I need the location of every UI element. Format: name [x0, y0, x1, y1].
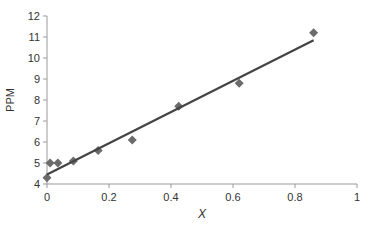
y-tick-label: 6 — [34, 136, 40, 148]
y-tick-label: 4 — [34, 178, 40, 190]
y-tick-label: 5 — [34, 157, 40, 169]
data-point-diamond — [309, 28, 318, 37]
data-point-diamond — [53, 159, 62, 168]
x-axis-label: X — [197, 207, 207, 221]
trend-line — [47, 40, 314, 174]
y-tick-label: 7 — [34, 115, 40, 127]
y-tick-label: 9 — [34, 73, 40, 85]
x-tick-label: 0 — [44, 191, 50, 203]
x-tick-label: 0.4 — [163, 191, 178, 203]
y-tick-label: 12 — [28, 10, 40, 22]
x-tick-label: 0.2 — [101, 191, 116, 203]
scatter-chart: 45678910111200.20.40.60.81XPPM — [0, 0, 372, 228]
y-tick-label: 10 — [28, 52, 40, 64]
y-axis-label: PPM — [4, 88, 16, 112]
plot-area: 45678910111200.20.40.60.81XPPM — [4, 10, 360, 221]
x-tick-label: 0.6 — [225, 191, 240, 203]
x-tick-label: 0.8 — [287, 191, 302, 203]
y-tick-label: 8 — [34, 94, 40, 106]
data-point-diamond — [128, 135, 137, 144]
y-tick-label: 11 — [29, 31, 40, 43]
x-tick-label: 1 — [354, 191, 360, 203]
